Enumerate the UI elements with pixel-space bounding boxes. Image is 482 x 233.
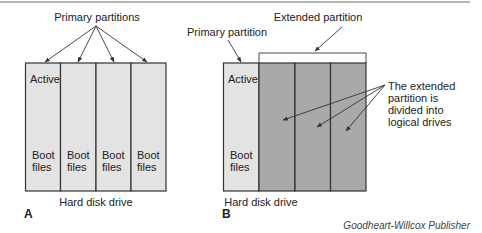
panel-letter-b: B <box>222 207 231 221</box>
note-line-4: logical drives <box>388 116 452 128</box>
panel-b: Primary partition Extended partition Act… <box>187 11 455 221</box>
note-line-1: The extended <box>388 80 455 92</box>
files-label-4: files <box>137 161 157 173</box>
panel-letter-a: A <box>24 207 33 221</box>
arrow-to-partition-3 <box>96 26 114 62</box>
arrow-to-partition-1 <box>45 26 96 62</box>
logical-drive-1 <box>259 63 295 191</box>
logical-drive-2 <box>295 63 331 191</box>
hard-disk-drive-label-b: Hard disk drive <box>224 196 297 208</box>
files-label-b: files <box>230 161 250 173</box>
logical-drives-note: The extended partition is divided into l… <box>388 80 455 128</box>
active-label-a: Active <box>30 73 60 85</box>
extended-partition-bracket <box>259 53 366 63</box>
boot-label-2: Boot <box>67 149 90 161</box>
note-line-2: partition is <box>388 92 439 104</box>
boot-label-b: Boot <box>230 149 253 161</box>
hard-disk-a: Active Boot files Boot files Boot files … <box>26 63 167 191</box>
files-label-1: files <box>32 161 52 173</box>
arrow-to-extended-bracket <box>315 27 342 51</box>
hard-disk-b: Active Boot files <box>224 63 367 191</box>
arrow-to-primary-partition <box>228 40 241 62</box>
arrow-to-partition-2 <box>78 26 96 62</box>
extended-partition-label: Extended partition <box>274 11 363 23</box>
logical-drive-3 <box>331 63 367 191</box>
arrow-to-partition-4 <box>96 26 147 62</box>
boot-label-1: Boot <box>32 149 55 161</box>
partition-diagram: Primary partitions Active Boot files Boo… <box>0 0 482 233</box>
boot-label-4: Boot <box>137 149 160 161</box>
publisher-credit: Goodheart-Willcox Publisher <box>343 220 470 231</box>
note-line-3: divided into <box>388 104 444 116</box>
hard-disk-drive-label-a: Hard disk drive <box>59 196 132 208</box>
panel-a: Primary partitions Active Boot files Boo… <box>24 11 166 221</box>
boot-label-3: Boot <box>102 149 125 161</box>
active-label-b: Active <box>228 73 258 85</box>
primary-partition-label: Primary partition <box>187 26 267 38</box>
primary-partitions-label: Primary partitions <box>54 11 140 23</box>
files-label-3: files <box>102 161 122 173</box>
files-label-2: files <box>67 161 87 173</box>
